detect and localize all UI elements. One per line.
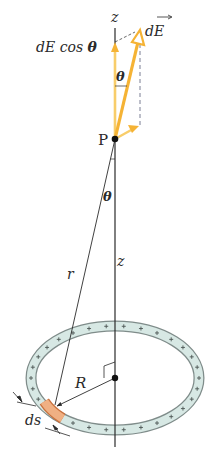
point-P-label: P bbox=[98, 131, 108, 149]
vector-arrow-over-E bbox=[157, 15, 172, 19]
dE-label: dE bbox=[145, 23, 164, 39]
point-P bbox=[112, 136, 119, 143]
R-label: R bbox=[74, 374, 86, 392]
theta-label-upper: θ bbox=[116, 69, 125, 84]
dE-cos-theta-label: dE cos θ bbox=[36, 39, 98, 55]
z-axis-label-top: z bbox=[110, 9, 119, 25]
theta-bold: θ bbox=[88, 39, 98, 55]
theta-label-lower: θ bbox=[103, 189, 112, 204]
ring-center bbox=[112, 375, 118, 381]
ring-field-diagram: z dE dE cos θ θ P θ r z R ds bbox=[0, 0, 218, 463]
ds-label: ds bbox=[25, 412, 41, 428]
r-label: r bbox=[67, 266, 75, 282]
dE-cos-prefix: dE cos bbox=[36, 39, 88, 55]
z-axis-label-mid: z bbox=[116, 253, 125, 269]
